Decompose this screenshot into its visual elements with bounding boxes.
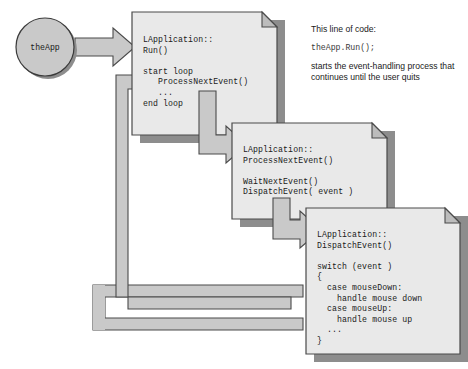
card-run-code: LApplication:: Run() start loop ProcessN…: [143, 35, 248, 109]
arrow-return-outer-riser: [93, 285, 105, 330]
card-dispatch-event-code: LApplication:: DispatchEvent() switch (e…: [317, 230, 422, 347]
arrow-theapp-to-run: [75, 28, 135, 66]
start-node-label: theApp: [15, 43, 75, 52]
annotation-code: theApp.Run();: [311, 43, 461, 52]
card-process-next-event-code: LApplication:: ProcessNextEvent() WaitNe…: [243, 145, 353, 198]
annotation-block: This line of code: theApp.Run(); starts …: [311, 24, 461, 82]
annotation-body: starts the event-handling process that c…: [311, 61, 461, 82]
diagram-canvas: theApp LApplication:: Run() start loop P…: [0, 0, 468, 369]
annotation-intro: This line of code:: [311, 24, 461, 34]
